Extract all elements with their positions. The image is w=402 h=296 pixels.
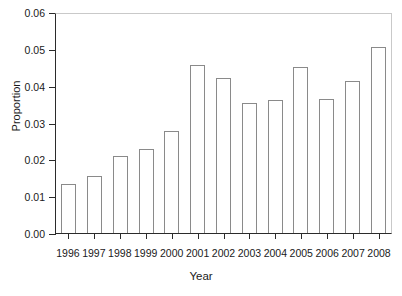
x-tick-mark [146, 234, 147, 239]
x-tick-mark [198, 234, 199, 239]
y-tick-label: 0.04 [0, 82, 45, 92]
x-axis-title: Year [0, 270, 402, 282]
bar-series [56, 14, 391, 233]
y-tick-label: 0.02 [0, 155, 45, 165]
y-tick-label: 0.03 [0, 119, 45, 129]
y-tick-label: 0.01 [0, 192, 45, 202]
x-tick-mark [301, 234, 302, 239]
y-tick-label: 0.06 [0, 8, 45, 18]
bar [190, 65, 205, 233]
bar [164, 131, 179, 233]
bar-chart: Proportion 0.000.010.020.030.040.050.06 … [0, 0, 402, 296]
x-tick-mark [120, 234, 121, 239]
y-tick-label: 0.05 [0, 45, 45, 55]
bar [139, 149, 154, 233]
x-tick-mark [94, 234, 95, 239]
x-tick-mark [379, 234, 380, 239]
x-tick-mark [224, 234, 225, 239]
y-tick-label: 0.00 [0, 229, 45, 239]
plot-area [55, 13, 392, 234]
x-tick-mark [249, 234, 250, 239]
bar [242, 103, 257, 233]
x-tick-mark [172, 234, 173, 239]
bar [319, 99, 334, 233]
bar [61, 184, 76, 233]
x-tick-mark [327, 234, 328, 239]
bar [371, 47, 386, 233]
x-tick-label: 2008 [359, 247, 399, 259]
bar [345, 81, 360, 233]
bar [87, 176, 102, 233]
bar [268, 100, 283, 233]
x-tick-mark [68, 234, 69, 239]
y-tick-mark [49, 234, 56, 235]
bar [293, 67, 308, 233]
x-tick-mark [353, 234, 354, 239]
bar [216, 78, 231, 233]
bar [113, 156, 128, 233]
y-axis-title: Proportion [10, 56, 22, 156]
x-tick-mark [275, 234, 276, 239]
